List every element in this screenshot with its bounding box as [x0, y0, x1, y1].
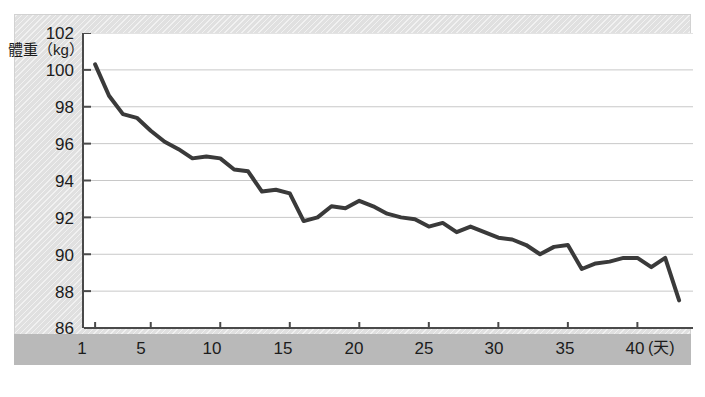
x-tick-label-5: 5 [131, 340, 151, 357]
x-tick-label-35: 35 [553, 340, 577, 357]
x-tick-label-25: 25 [412, 340, 436, 357]
x-tick-label-1: 1 [72, 340, 92, 357]
x-axis-unit-label: (天) [648, 340, 675, 356]
x-tick-label-40: 40 [623, 340, 647, 357]
y-tick-marks [84, 33, 91, 328]
x-tick-label-10: 10 [200, 340, 224, 357]
y-tick-label-102: 102 [22, 25, 74, 42]
y-tick-label-86: 86 [22, 320, 74, 337]
y-tick-label-100: 100 [22, 62, 74, 79]
gridlines [84, 33, 693, 291]
chart-canvas [84, 33, 693, 329]
y-tick-label-92: 92 [22, 210, 74, 227]
y-tick-label-90: 90 [22, 247, 74, 264]
chart-figure: 體重（kg） 102 100 98 96 94 92 90 88 86 1 5 … [0, 0, 705, 397]
plot-area [82, 33, 693, 328]
y-tick-label-96: 96 [22, 136, 74, 153]
x-tick-label-15: 15 [271, 340, 295, 357]
y-tick-label-88: 88 [22, 284, 74, 301]
y-tick-label-98: 98 [22, 99, 74, 116]
x-tick-label-30: 30 [482, 340, 506, 357]
x-tick-label-20: 20 [342, 340, 366, 357]
y-tick-label-94: 94 [22, 173, 74, 190]
weight-series-line [95, 64, 679, 300]
